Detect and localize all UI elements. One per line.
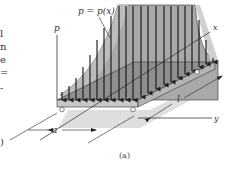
y-axis-label: y — [213, 114, 219, 123]
p-axis-label: p — [54, 23, 60, 33]
dimension-a-label: a — [52, 125, 57, 135]
pressure-load-diagram: p x — [0, 0, 236, 170]
x-axis-label: x — [213, 23, 218, 32]
figure-caption: (a) — [119, 151, 130, 160]
dimension-l-label: l — [177, 94, 180, 104]
load-function-label: p = p(x) — [78, 6, 115, 16]
